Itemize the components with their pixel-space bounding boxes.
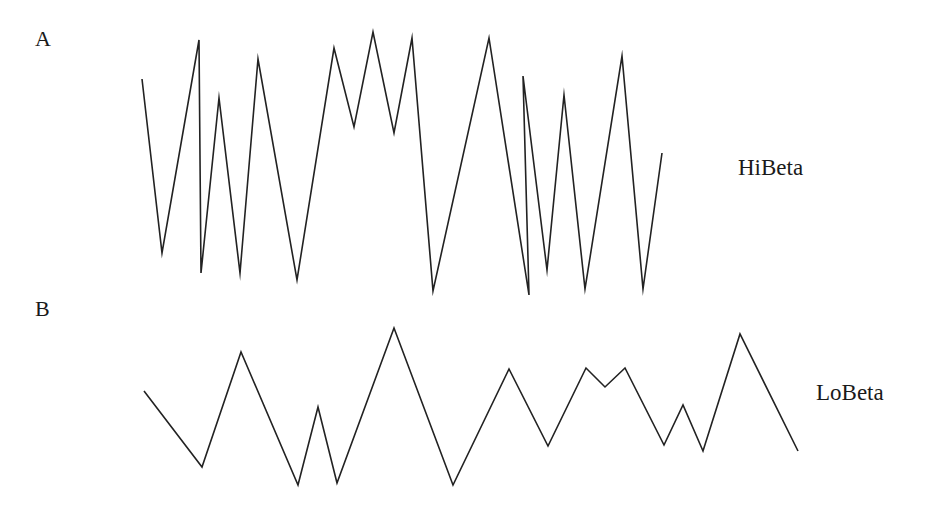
lobeta-trace-line xyxy=(144,328,798,485)
panel-label-b: B xyxy=(35,298,50,320)
trace-label-hibeta: HiBeta xyxy=(738,156,803,179)
trace-label-lobeta: LoBeta xyxy=(816,381,884,404)
hibeta-trace-line xyxy=(142,32,662,295)
panel-label-a: A xyxy=(35,28,51,50)
waveform-figure: A HiBeta B LoBeta xyxy=(0,0,933,512)
waveform-plot-area xyxy=(0,0,933,512)
